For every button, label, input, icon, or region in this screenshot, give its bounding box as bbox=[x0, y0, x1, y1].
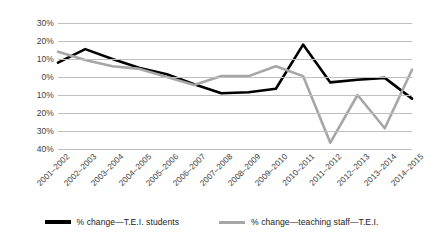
legend-swatch bbox=[219, 221, 245, 224]
gridline bbox=[58, 95, 412, 96]
y-axis-tick-label: 20% bbox=[2, 36, 54, 46]
legend-label: % change—teaching staff—T.E.I. bbox=[251, 217, 378, 227]
y-axis-tick-label: 20% bbox=[2, 108, 54, 118]
gridline bbox=[58, 23, 412, 24]
y-axis-tick-label: 0% bbox=[2, 72, 54, 82]
legend-label: % change—T.E.I. students bbox=[77, 217, 179, 227]
legend-item[interactable]: % change—teaching staff—T.E.I. bbox=[219, 217, 378, 227]
legend-swatch bbox=[45, 220, 71, 223]
gridline bbox=[58, 113, 412, 114]
gridline bbox=[58, 131, 412, 132]
series-line bbox=[58, 45, 412, 99]
gridline bbox=[58, 41, 412, 42]
legend-item[interactable]: % change—T.E.I. students bbox=[45, 217, 179, 227]
chart-legend: % change—T.E.I. students% change—teachin… bbox=[0, 211, 423, 233]
gridline bbox=[58, 59, 412, 60]
y-axis-tick-label: 30% bbox=[2, 18, 54, 28]
plot-area bbox=[58, 23, 412, 149]
y-axis: 30%20%10%0%10%20%30%40% bbox=[0, 23, 54, 149]
y-axis-tick-label: 30% bbox=[2, 126, 54, 136]
y-axis-tick-label: 10% bbox=[2, 54, 54, 64]
y-axis-tick-label: 40% bbox=[2, 144, 54, 154]
y-axis-tick-label: 10% bbox=[2, 90, 54, 100]
x-axis: 2001–20022002–20032003–20042004–20052005… bbox=[58, 150, 412, 208]
gridline bbox=[58, 77, 412, 78]
series-line bbox=[58, 52, 412, 143]
